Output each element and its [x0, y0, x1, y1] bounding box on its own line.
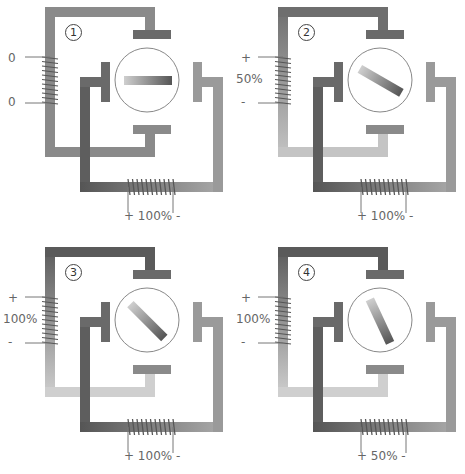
- rotor-magnet: [124, 76, 172, 85]
- coil-a-bottom-label: -: [8, 336, 12, 348]
- motor-diagram: [233, 0, 465, 237]
- coil-a-top-label: +: [8, 292, 18, 304]
- rotor-magnet: [127, 301, 167, 341]
- coil-a-top-label: +: [241, 292, 251, 304]
- coil-b-label: + 100% -: [124, 210, 180, 222]
- coil-a-value-label: 50%: [236, 73, 263, 85]
- panel-number-badge: 4: [298, 264, 315, 281]
- motor-diagram: [0, 240, 232, 474]
- motor-diagram: [233, 240, 465, 474]
- coil-a-value-label: 100%: [236, 313, 270, 325]
- motor-panel-3: 3 + 100% - + 100% -: [0, 240, 232, 474]
- motor-panel-2: 2 + 50% - + 100% -: [233, 0, 465, 237]
- coil-b-label: + 100% -: [357, 210, 413, 222]
- coil-a-bottom-label: 0: [8, 96, 16, 108]
- panel-number-badge: 3: [65, 264, 82, 281]
- rotor-magnet: [358, 65, 404, 97]
- motor-panel-4: 4 + 100% - + 50% -: [233, 240, 465, 474]
- motor-panel-1: 1 0 0 + 100% -: [0, 0, 232, 237]
- coil-b-label: + 100% -: [124, 450, 180, 462]
- motor-diagram: [0, 0, 232, 237]
- rotor-magnet: [366, 297, 394, 344]
- coil-a-bottom-label: -: [241, 336, 245, 348]
- coil-a-value-label: 100%: [3, 313, 37, 325]
- panel-number-badge: 2: [298, 24, 315, 41]
- coil-a-top-label: +: [241, 52, 251, 64]
- coil-a-top-label: 0: [8, 52, 16, 64]
- coil-a-bottom-label: -: [241, 96, 245, 108]
- panel-number-badge: 1: [65, 24, 82, 41]
- coil-b-label: + 50% -: [357, 450, 406, 462]
